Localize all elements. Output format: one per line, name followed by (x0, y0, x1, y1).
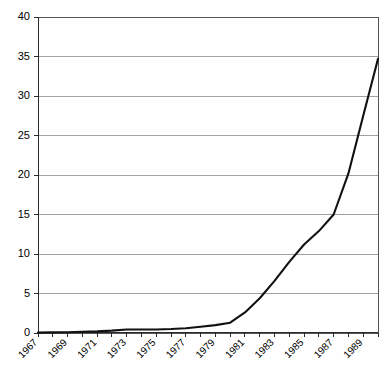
y-axis-tick-label: 10 (18, 247, 30, 259)
x-axis-labels: 1967196919711973197519771979198119831985… (16, 336, 365, 360)
y-axis-tick-label: 15 (18, 208, 30, 220)
chart-canvas: 0510152025303540 19671969197119731975197… (0, 0, 391, 383)
y-axis-tick-label: 20 (18, 168, 30, 180)
x-axis-tick-label: 1967 (16, 336, 40, 360)
y-axis-tick-label: 35 (18, 50, 30, 62)
line-chart: 0510152025303540 19671969197119731975197… (0, 0, 391, 383)
y-axis-tick-label: 25 (18, 129, 30, 141)
x-axis-tick-label: 1979 (193, 336, 217, 360)
y-axis-tick-label: 40 (18, 10, 30, 22)
x-axis-tick-label: 1969 (45, 336, 69, 360)
x-axis-tick-label: 1971 (75, 336, 99, 360)
x-axis-tick-label: 1985 (282, 336, 306, 360)
y-axis-labels: 0510152025303540 (18, 10, 30, 338)
x-axis-tick-label: 1977 (164, 336, 188, 360)
y-axis-tick-label: 30 (18, 89, 30, 101)
x-axis-tick-label: 1989 (341, 336, 365, 360)
x-axis-tick-label: 1983 (252, 336, 276, 360)
x-axis-tick-label: 1987 (312, 336, 336, 360)
x-axis-tick-label: 1975 (134, 336, 158, 360)
x-axis-tick-label: 1973 (105, 336, 129, 360)
x-axis-tick-label: 1981 (223, 336, 247, 360)
y-axis-tick-label: 0 (24, 326, 30, 338)
y-axis-tick-label: 5 (24, 287, 30, 299)
y-axis-tick-marks (34, 17, 38, 333)
